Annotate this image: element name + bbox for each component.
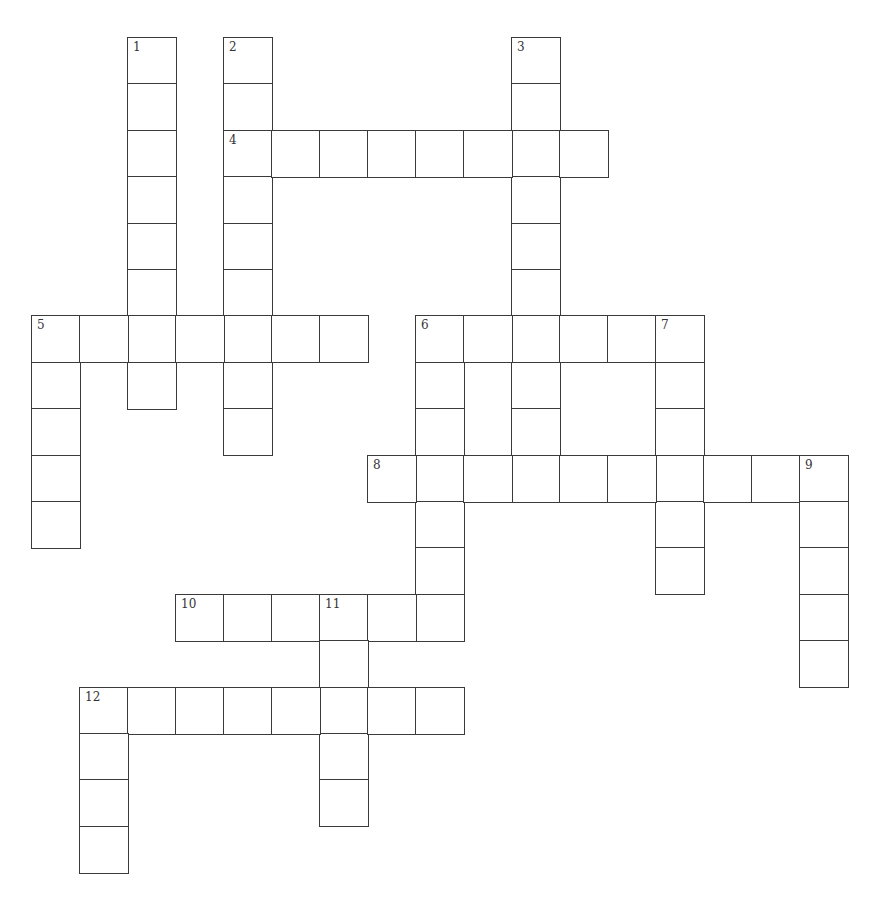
crossword-cell[interactable] bbox=[511, 130, 561, 178]
crossword-cell[interactable] bbox=[31, 362, 81, 410]
crossword-cell[interactable] bbox=[415, 408, 465, 456]
crossword-cell[interactable] bbox=[415, 362, 465, 410]
crossword-cell[interactable] bbox=[463, 315, 513, 363]
crossword-cell[interactable] bbox=[415, 455, 465, 503]
crossword-cell[interactable] bbox=[223, 269, 273, 317]
crossword-cell[interactable] bbox=[127, 687, 177, 735]
crossword-cell[interactable] bbox=[367, 130, 417, 178]
crossword-cell[interactable] bbox=[79, 315, 129, 363]
crossword-cell[interactable] bbox=[175, 315, 225, 363]
crossword-cell[interactable] bbox=[223, 315, 273, 363]
crossword-cell[interactable]: 4 bbox=[223, 130, 273, 178]
clue-number: 6 bbox=[421, 319, 429, 331]
crossword-cell[interactable] bbox=[367, 687, 417, 735]
clue-number: 2 bbox=[229, 41, 237, 53]
crossword-cell[interactable] bbox=[31, 501, 81, 549]
crossword-cell[interactable] bbox=[127, 269, 177, 317]
crossword-cell[interactable] bbox=[79, 826, 129, 874]
crossword-cell[interactable] bbox=[367, 594, 417, 642]
crossword-cell[interactable] bbox=[703, 455, 753, 503]
crossword-cell[interactable] bbox=[799, 594, 849, 642]
crossword-cell[interactable] bbox=[271, 130, 321, 178]
crossword-cell[interactable] bbox=[511, 83, 561, 131]
crossword-cell[interactable] bbox=[655, 362, 705, 410]
crossword-cell[interactable] bbox=[655, 547, 705, 595]
clue-number: 8 bbox=[373, 459, 381, 471]
crossword-cell[interactable] bbox=[751, 455, 801, 503]
crossword-cell[interactable] bbox=[271, 315, 321, 363]
clue-number: 1 bbox=[133, 41, 141, 53]
crossword-cell[interactable] bbox=[511, 223, 561, 271]
crossword-cell[interactable] bbox=[511, 176, 561, 224]
crossword-cell[interactable] bbox=[223, 687, 273, 735]
crossword-cell[interactable] bbox=[31, 408, 81, 456]
crossword-cell[interactable] bbox=[223, 362, 273, 410]
crossword-cell[interactable] bbox=[655, 455, 705, 503]
crossword-cell[interactable]: 8 bbox=[367, 455, 417, 503]
crossword-cell[interactable] bbox=[223, 408, 273, 456]
crossword-cell[interactable] bbox=[127, 83, 177, 131]
crossword-cell[interactable] bbox=[127, 223, 177, 271]
clue-number: 11 bbox=[325, 598, 340, 610]
crossword-cell[interactable]: 9 bbox=[799, 455, 849, 503]
crossword-cell[interactable] bbox=[79, 733, 129, 781]
crossword-cell[interactable] bbox=[319, 130, 369, 178]
crossword-cell[interactable] bbox=[415, 501, 465, 549]
clue-number: 5 bbox=[37, 319, 45, 331]
crossword-cell[interactable]: 3 bbox=[511, 37, 561, 85]
crossword-cell[interactable] bbox=[415, 687, 465, 735]
crossword-cell[interactable] bbox=[319, 687, 369, 735]
crossword-cell[interactable] bbox=[799, 547, 849, 595]
crossword-cell[interactable] bbox=[127, 176, 177, 224]
crossword-cell[interactable] bbox=[511, 408, 561, 456]
clue-number: 4 bbox=[229, 134, 237, 146]
crossword-cell[interactable] bbox=[127, 362, 177, 410]
crossword-cell[interactable]: 6 bbox=[415, 315, 465, 363]
crossword-cell[interactable]: 12 bbox=[79, 687, 129, 735]
clue-number: 10 bbox=[181, 598, 196, 610]
clue-number: 3 bbox=[517, 41, 525, 53]
clue-number: 12 bbox=[85, 691, 100, 703]
crossword-cell[interactable] bbox=[799, 501, 849, 549]
crossword-cell[interactable] bbox=[271, 687, 321, 735]
crossword-cell[interactable] bbox=[175, 687, 225, 735]
crossword-cell[interactable]: 10 bbox=[175, 594, 225, 642]
crossword-cell[interactable] bbox=[319, 315, 369, 363]
clue-number: 9 bbox=[805, 459, 813, 471]
crossword-cell[interactable]: 1 bbox=[127, 37, 177, 85]
crossword-cell[interactable] bbox=[223, 83, 273, 131]
crossword-cell[interactable] bbox=[511, 455, 561, 503]
crossword-cell[interactable] bbox=[223, 176, 273, 224]
crossword-cell[interactable] bbox=[223, 594, 273, 642]
crossword-cell[interactable] bbox=[463, 455, 513, 503]
crossword-cell[interactable] bbox=[511, 362, 561, 410]
crossword-cell[interactable] bbox=[607, 315, 657, 363]
crossword-cell[interactable] bbox=[463, 130, 513, 178]
crossword-cell[interactable] bbox=[319, 779, 369, 827]
crossword-cell[interactable] bbox=[319, 733, 369, 781]
crossword-cell[interactable] bbox=[559, 455, 609, 503]
crossword-cell[interactable] bbox=[511, 315, 561, 363]
crossword-cell[interactable] bbox=[607, 455, 657, 503]
crossword-cell[interactable] bbox=[127, 315, 177, 363]
crossword-cell[interactable] bbox=[31, 455, 81, 503]
crossword-cell[interactable]: 11 bbox=[319, 594, 369, 642]
crossword-cell[interactable]: 5 bbox=[31, 315, 81, 363]
crossword-cell[interactable] bbox=[223, 223, 273, 271]
crossword-cell[interactable] bbox=[127, 130, 177, 178]
crossword-cell[interactable] bbox=[511, 269, 561, 317]
crossword-cell[interactable]: 7 bbox=[655, 315, 705, 363]
crossword-cell[interactable] bbox=[415, 594, 465, 642]
crossword-cell[interactable] bbox=[271, 594, 321, 642]
crossword-cell[interactable] bbox=[319, 640, 369, 688]
crossword-cell[interactable] bbox=[559, 130, 609, 178]
crossword-cell[interactable] bbox=[559, 315, 609, 363]
crossword-cell[interactable] bbox=[79, 779, 129, 827]
crossword-cell[interactable] bbox=[415, 130, 465, 178]
crossword-grid: 124356789101112 bbox=[0, 0, 873, 913]
crossword-cell[interactable] bbox=[799, 640, 849, 688]
crossword-cell[interactable] bbox=[655, 408, 705, 456]
crossword-cell[interactable]: 2 bbox=[223, 37, 273, 85]
crossword-cell[interactable] bbox=[655, 501, 705, 549]
crossword-cell[interactable] bbox=[415, 547, 465, 595]
